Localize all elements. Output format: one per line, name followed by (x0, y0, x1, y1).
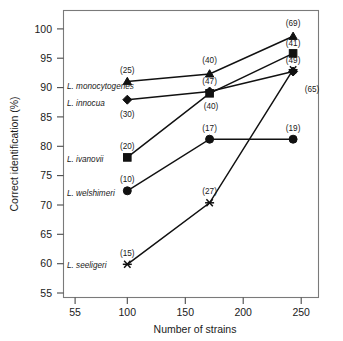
x-tick-label-250: 250 (292, 306, 310, 318)
x-axis-title: Number of strains (154, 323, 237, 335)
count-label-seeligeri-2: (27) (202, 187, 217, 196)
count-label-welshimeri-3: (19) (286, 124, 301, 133)
y-tick-label-70: 70 (40, 199, 52, 211)
count-label-seeligeri-1: (15) (120, 249, 135, 258)
marker-circle-welshimeri-1 (123, 187, 131, 195)
y-tick-label-60: 60 (40, 257, 52, 269)
species-label-innocua: L. innocua (67, 99, 105, 108)
x-tick-label-150: 150 (177, 306, 195, 318)
count-label-ivanovii-2: (40) (204, 102, 219, 111)
species-label-monocytogenes: L. monocytogenes (67, 82, 134, 91)
species-label-seeligeri: L. seeligeri (67, 261, 107, 270)
count-label-ivanovii-1: (20) (120, 142, 135, 151)
y-tick-label-85: 85 (40, 111, 52, 123)
species-label-ivanovii: L. ivanovii (67, 155, 104, 164)
y-tick-label-75: 75 (40, 169, 52, 181)
species-label-welshimeri: L. welshimeri (67, 189, 115, 198)
count-label-welshimeri-2: (17) (202, 124, 217, 133)
count-label-monocytogenes-2: (40) (202, 56, 217, 65)
y-axis-title: Correct identification (%) (8, 97, 20, 212)
y-tick-label-80: 80 (40, 140, 52, 152)
y-tick-label-90: 90 (40, 81, 52, 93)
count-label-monocytogenes-1: (25) (120, 66, 135, 75)
count-label-innocua-3: (65) (305, 85, 320, 94)
y-tick-label-95: 95 (40, 52, 52, 64)
count-label-monocytogenes-3: (69) (286, 19, 301, 28)
marker-circle-welshimeri-3 (289, 135, 297, 143)
count-label-seeligeri-3: (49) (286, 56, 301, 65)
x-tick-label-200: 200 (234, 306, 252, 318)
count-label-welshimeri-1: (10) (120, 175, 135, 184)
x-tick-label-100: 100 (119, 306, 137, 318)
x-tick-label-55: 55 (69, 306, 81, 318)
y-tick-label-100: 100 (34, 23, 52, 35)
chart-figure: 100 95 90 85 80 75 70 65 60 55 Correct i… (0, 0, 343, 341)
count-label-innocua-1: (30) (120, 110, 135, 119)
marker-square-ivanovii-1 (124, 154, 132, 162)
y-tick-label-65: 65 (40, 228, 52, 240)
y-tick-label-55: 55 (40, 287, 52, 299)
marker-square-ivanovii-2 (206, 90, 214, 98)
count-label-ivanovii-3: (41) (286, 39, 301, 48)
marker-circle-welshimeri-2 (206, 135, 214, 143)
count-label-innocua-2: (47) (202, 77, 217, 86)
